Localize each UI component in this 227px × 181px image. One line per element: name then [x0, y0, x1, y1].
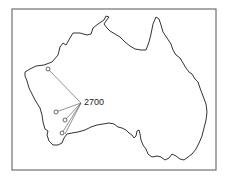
connector-lines	[48, 69, 81, 134]
map-figure: 2700	[0, 0, 227, 181]
site-marker-icon	[63, 118, 67, 122]
australia-outline	[25, 16, 207, 160]
site-marker-icon	[46, 67, 50, 71]
site-marker-icon	[60, 131, 64, 135]
site-markers	[46, 67, 67, 135]
distance-label: 2700	[84, 98, 104, 107]
site-marker-icon	[54, 110, 58, 114]
